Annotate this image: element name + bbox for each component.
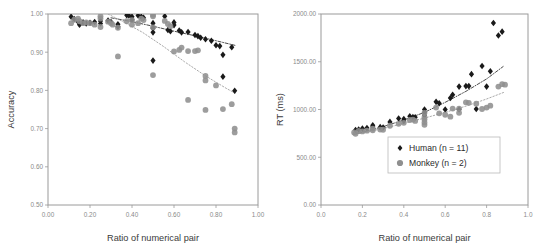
data-point-monkey (456, 110, 462, 116)
series-human (353, 20, 505, 134)
data-point-human (213, 42, 218, 49)
data-point-monkey (171, 49, 177, 55)
data-point-monkey (213, 83, 219, 89)
data-point-monkey (98, 16, 104, 22)
data-point-human (491, 20, 496, 27)
data-point-monkey (433, 105, 439, 111)
data-point-monkey (401, 120, 407, 126)
data-point-monkey (141, 17, 147, 23)
data-point-monkey (473, 101, 479, 107)
data-point-monkey (396, 121, 402, 127)
trendline (356, 67, 503, 134)
data-point-human (479, 63, 484, 70)
y-tick-label: 1.00 (31, 10, 44, 17)
y-tick-label: 0.60 (31, 163, 44, 170)
data-point-monkey (229, 101, 235, 107)
y-tick-label: 1500.00 (293, 58, 317, 65)
data-point-monkey (412, 118, 418, 124)
data-point-human (484, 83, 489, 90)
figure-container: 0.000.200.400.600.801.000.500.600.700.80… (0, 0, 542, 251)
data-point-human (150, 57, 155, 64)
x-tick-label: 0.6 (441, 211, 450, 218)
data-point-monkey (124, 18, 130, 24)
data-point-monkey (447, 114, 453, 120)
data-point-human (209, 37, 214, 44)
data-point-human (500, 28, 505, 35)
data-point-human (457, 83, 462, 90)
data-point-human (217, 43, 222, 50)
data-point-monkey (150, 72, 156, 78)
data-point-monkey (422, 122, 428, 128)
data-point-group (351, 20, 508, 137)
x-tick-label: 0.00 (42, 211, 55, 218)
data-point-monkey (364, 128, 370, 134)
trendline-group (356, 67, 505, 134)
data-point-monkey (370, 127, 376, 133)
data-point-monkey (115, 25, 121, 31)
y-axis-title: RT (ms) (275, 93, 285, 126)
data-point-monkey (110, 22, 116, 28)
accuracy-scatter-plot: 0.000.200.400.600.801.000.500.600.700.80… (0, 0, 271, 251)
y-axis-title: Accuracy (6, 90, 16, 128)
data-point-monkey (203, 78, 209, 84)
data-point-monkey (150, 24, 156, 30)
panel-accuracy: 0.000.200.400.600.801.000.500.600.700.80… (0, 0, 271, 251)
x-tick-label: 0.60 (168, 211, 181, 218)
legend: Human (n = 11)Monkey (n = 2) (388, 137, 500, 173)
x-tick-label: 0.4 (399, 211, 408, 218)
data-point-human (496, 32, 501, 39)
data-point-monkey (179, 45, 185, 51)
y-tick-label: 0.00 (304, 201, 317, 208)
y-tick-label: 0.70 (31, 125, 44, 132)
y-tick-label: 2000.00 (293, 10, 317, 17)
x-axis-title: Ratio of numerical pair (379, 233, 471, 243)
data-point-monkey (232, 130, 238, 136)
data-point-monkey (150, 13, 156, 19)
x-tick-label: 0.80 (210, 211, 223, 218)
legend-label: Human (n = 11) (409, 143, 468, 153)
x-axis-title: Ratio of numerical pair (107, 233, 199, 243)
y-tick-label: 0.50 (31, 201, 44, 208)
plot-frame (48, 14, 258, 205)
data-point-human (488, 68, 493, 75)
data-point-human (232, 87, 237, 94)
data-point-monkey (115, 54, 121, 60)
rt-scatter-plot: 0.00.20.40.60.81.00.00500.001000.001500.… (271, 0, 542, 251)
data-point-group (68, 12, 237, 135)
x-tick-label: 0.40 (126, 211, 139, 218)
data-point-human (466, 83, 471, 90)
data-point-monkey (436, 110, 442, 116)
data-point-monkey (98, 24, 104, 30)
data-point-human (220, 52, 225, 59)
data-point-monkey (387, 123, 393, 129)
x-tick-label: 0.0 (317, 211, 326, 218)
x-tick-label: 1.00 (252, 211, 265, 218)
data-point-human (203, 36, 208, 43)
y-tick-label: 0.90 (31, 49, 44, 56)
y-tick-label: 1000.00 (293, 106, 317, 113)
data-point-monkey (487, 103, 493, 109)
x-tick-label: 0.2 (358, 211, 367, 218)
series-monkey (351, 81, 508, 136)
panel-rt: 0.00.20.40.60.81.00.00500.001000.001500.… (271, 0, 542, 251)
data-point-human (220, 73, 225, 80)
data-point-human (469, 71, 474, 78)
x-tick-label: 0.20 (84, 211, 97, 218)
data-point-monkey (466, 100, 472, 106)
data-point-monkey (450, 106, 456, 112)
data-point-monkey (92, 22, 98, 28)
legend-label: Monkey (n = 2) (409, 158, 467, 168)
data-point-monkey (220, 106, 226, 112)
x-tick-label: 1.0 (524, 211, 533, 218)
data-point-monkey (380, 127, 386, 133)
data-point-monkey (502, 82, 508, 88)
data-point-human (474, 106, 479, 113)
legend-marker-monkey (397, 160, 403, 166)
data-point-monkey (168, 23, 174, 29)
data-point-monkey (129, 22, 135, 28)
x-tick-label: 0.8 (482, 211, 491, 218)
data-point-monkey (195, 47, 201, 53)
data-point-monkey (442, 112, 448, 118)
y-tick-label: 0.80 (31, 87, 44, 94)
data-point-monkey (185, 48, 191, 54)
